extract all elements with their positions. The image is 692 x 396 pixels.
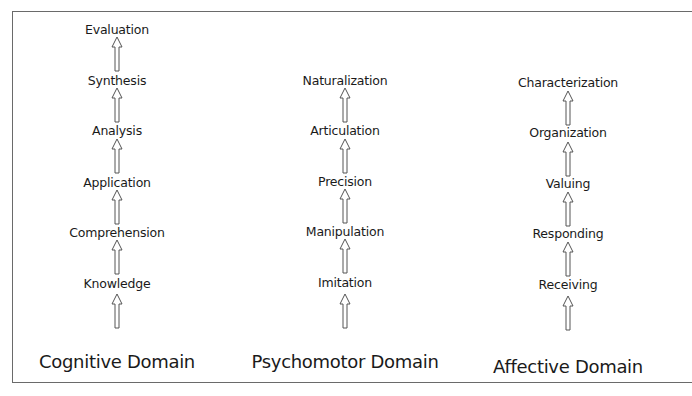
cognitive-domain-title: Cognitive Domain	[39, 351, 195, 372]
level-receiving: Receiving	[539, 277, 598, 292]
up-arrow-icon	[339, 293, 351, 329]
level-analysis: Analysis	[92, 123, 142, 138]
up-arrow-icon	[562, 141, 574, 177]
level-responding: Responding	[532, 226, 603, 241]
up-arrow-icon	[111, 239, 123, 275]
up-arrow-icon	[111, 293, 123, 329]
level-naturalization: Naturalization	[303, 73, 388, 88]
psychomotor-domain-title: Psychomotor Domain	[251, 351, 438, 372]
level-evaluation: Evaluation	[85, 22, 149, 37]
level-precision: Precision	[318, 174, 372, 189]
up-arrow-icon	[111, 189, 123, 225]
up-arrow-icon	[339, 238, 351, 274]
up-arrow-icon	[111, 36, 123, 72]
up-arrow-icon	[562, 191, 574, 227]
up-arrow-icon	[111, 138, 123, 174]
level-organization: Organization	[529, 125, 607, 140]
up-arrow-icon	[562, 90, 574, 126]
level-application: Application	[83, 175, 151, 190]
level-valuing: Valuing	[546, 176, 591, 191]
up-arrow-icon	[339, 138, 351, 174]
up-arrow-icon	[562, 295, 574, 331]
level-manipulation: Manipulation	[306, 224, 384, 239]
up-arrow-icon	[562, 241, 574, 277]
up-arrow-icon	[339, 87, 351, 123]
up-arrow-icon	[111, 87, 123, 123]
level-knowledge: Knowledge	[84, 276, 151, 291]
level-articulation: Articulation	[310, 123, 380, 138]
level-synthesis: Synthesis	[88, 73, 146, 88]
level-comprehension: Comprehension	[69, 225, 165, 240]
affective-domain-title: Affective Domain	[493, 356, 643, 377]
level-imitation: Imitation	[318, 275, 372, 290]
level-characterization: Characterization	[518, 75, 618, 90]
up-arrow-icon	[339, 188, 351, 224]
